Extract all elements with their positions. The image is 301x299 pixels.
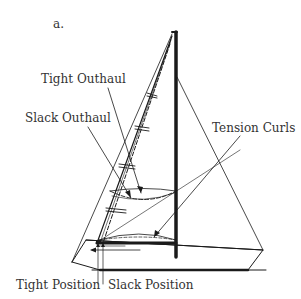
leader-slack-outhaul [88,127,131,198]
jib-sheet-line [96,150,240,243]
foot-curve-tight [99,234,176,240]
panel-label: a. [53,18,64,30]
label-slack-outhaul: Slack Outhaul [25,112,111,124]
label-tension-curls: Tension Curls [212,122,295,134]
label-tight-position: Tight Position [16,279,100,291]
arrowhead-tight-outhaul-icon [137,186,143,193]
outhaul-arrow-icon [90,248,96,253]
label-slack-position: Slack Position [108,279,193,291]
mainsail-leech-inner [100,40,171,243]
sailboat-drawing [0,0,301,299]
clew-fitting [96,240,101,244]
leader-tension-curls [154,136,240,237]
forestay [72,34,172,262]
label-tight-outhaul: Tight Outhaul [41,73,126,85]
sailboat-outhaul-diagram: a. Tight Outhaul Slack Outhaul Tension C… [0,0,301,299]
arrowhead-slack-outhaul-icon [125,190,131,198]
mainsail-leech-tight [97,36,172,243]
backstay [177,77,263,250]
draft-line-tight [110,189,176,192]
